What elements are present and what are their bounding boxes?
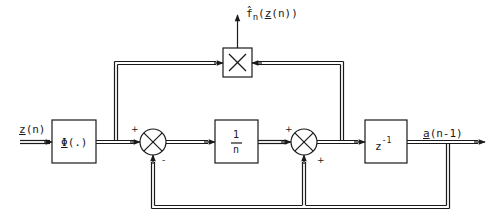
gain-numerator: 1 bbox=[233, 130, 239, 140]
block-diagram-canvas bbox=[0, 0, 493, 219]
summing-junction-1 bbox=[140, 129, 166, 155]
sum1-plus-sign: + bbox=[131, 125, 139, 134]
output-label: a(n-1) bbox=[423, 128, 463, 139]
sum1-minus-sign: - bbox=[162, 156, 165, 165]
top-output-label: f̂n(z(n)) bbox=[246, 8, 298, 22]
sum2-branch-to-multiplier-line bbox=[252, 62, 344, 141]
sum2-to-delay-line bbox=[317, 141, 365, 144]
sum2-plus-sign-bottom: + bbox=[317, 156, 325, 165]
multiplier-block bbox=[223, 48, 252, 77]
summing-junction-2 bbox=[291, 129, 317, 155]
gain-denominator: n bbox=[233, 145, 239, 155]
sum2-plus-sign-left: + bbox=[285, 125, 293, 134]
output-signal-line bbox=[407, 141, 485, 144]
gain-block bbox=[215, 120, 258, 163]
phi-block-label: Φ(.) bbox=[61, 137, 88, 148]
input-signal-line bbox=[20, 141, 52, 144]
feedback-loop-line bbox=[152, 144, 450, 209]
phi-to-sum1-line bbox=[96, 141, 140, 144]
sum1-to-gain-line bbox=[166, 141, 215, 144]
input-label: z(n) bbox=[19, 124, 46, 135]
gain-to-sum2-line bbox=[258, 141, 291, 144]
delay-block-label: z-1 bbox=[375, 139, 391, 152]
